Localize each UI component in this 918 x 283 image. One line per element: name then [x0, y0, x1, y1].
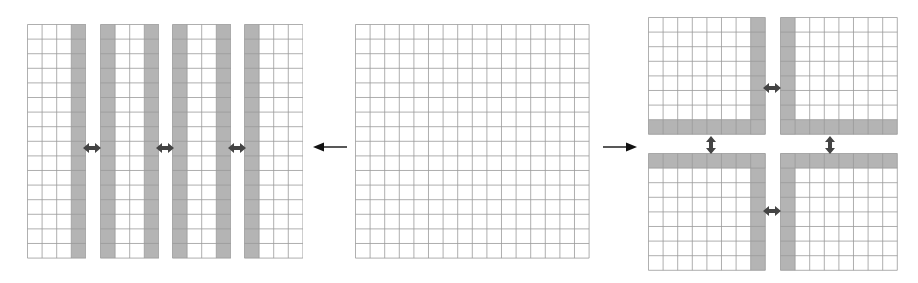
horizontal-double-arrow-icon — [83, 138, 101, 157]
left-arrow-icon — [311, 138, 349, 157]
quadrant-bottom-right — [780, 153, 898, 271]
strip-4 — [244, 24, 303, 259]
strip-2 — [100, 24, 159, 259]
horizontal-double-arrow-icon — [156, 138, 174, 157]
strip-1 — [27, 24, 86, 259]
right-arrow-icon — [601, 138, 639, 157]
original-grid — [355, 24, 590, 259]
quadrant-bottom-left — [648, 153, 766, 271]
quadrant-top-left — [648, 17, 766, 135]
horizontal-double-arrow-icon — [763, 201, 781, 220]
vertical-double-arrow-icon — [825, 136, 835, 158]
strip-3 — [172, 24, 231, 259]
horizontal-double-arrow-icon — [763, 78, 781, 97]
vertical-double-arrow-icon — [706, 136, 716, 158]
quadrant-top-right — [780, 17, 898, 135]
horizontal-double-arrow-icon — [228, 138, 246, 157]
